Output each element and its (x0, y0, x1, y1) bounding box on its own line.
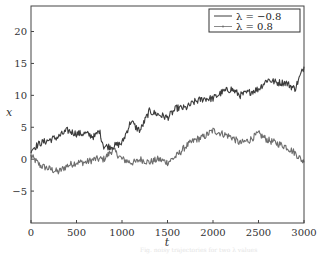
x-tick-label: 500 (67, 227, 86, 238)
y-tick-label: −5 (12, 186, 27, 197)
y-tick-label: 5 (21, 122, 27, 133)
plot-frame (31, 6, 304, 223)
y-tick-label: 0 (21, 154, 27, 165)
legend-label-0: λ = −0.8 (236, 11, 281, 22)
y-tick-label: 15 (14, 58, 27, 69)
y-tick-label: 10 (14, 90, 27, 101)
series-line-0 (31, 67, 304, 153)
x-tick-label: 1000 (109, 227, 134, 238)
series-layer (31, 67, 304, 174)
figure-caption: Fig. noisy trajectories for two λ values (140, 246, 257, 253)
x-tick-label: 2000 (200, 227, 225, 238)
legend-label-1: λ = 0.8 (236, 21, 273, 32)
y-tick-label: 20 (14, 26, 27, 37)
line-chart: 050010001500200025003000 −505101520 t x … (0, 0, 318, 256)
y-axis-label: x (6, 106, 13, 119)
x-tick-label: 0 (28, 227, 34, 238)
legend: λ = −0.8 λ = 0.8 (209, 9, 300, 32)
x-tick-label: 2500 (246, 227, 271, 238)
legend-marker-1 (222, 26, 224, 28)
series-line-1 (31, 128, 304, 174)
x-tick-label: 3000 (291, 227, 316, 238)
